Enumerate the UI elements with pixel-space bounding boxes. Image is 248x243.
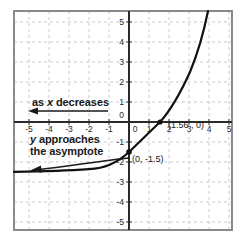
origin-y-label: 0 (119, 110, 124, 120)
coordinate-plane: -5 -4 -3 -2 -1 1 2 3 4 5 0 5 4 3 2 1 -1 … (0, 0, 248, 243)
y-tick-label: -3 (116, 177, 124, 187)
y-tick-label: -5 (116, 217, 124, 227)
x-intercept-label: (1.56 , 0) (168, 120, 204, 130)
annotation-line-1: y approaches (30, 133, 103, 145)
x-tick-label: 5 (227, 124, 232, 134)
x-intercept-point-marker (157, 119, 162, 124)
origin-x-label: 0 (133, 124, 138, 134)
exponential-graph-figure: -5 -4 -3 -2 -1 1 2 3 4 5 0 5 4 3 2 1 -1 … (0, 0, 248, 243)
y-tick-label: 3 (119, 57, 124, 67)
annotation-as-x-decreases: as x decreases (32, 96, 109, 108)
x-tick-label: -1 (105, 124, 113, 134)
y-tick-label: 4 (119, 37, 124, 47)
annotation-prefix: as (32, 96, 47, 108)
y-tick-label: 2 (119, 77, 124, 87)
y-intercept-label: (0, -1.5) (132, 154, 164, 164)
y-tick-label: -1 (116, 137, 124, 147)
annotation-suffix: approaches (36, 133, 100, 145)
y-tick-label: -4 (116, 197, 124, 207)
x-tick-label: 4 (207, 124, 212, 134)
y-intercept-point-marker (126, 149, 132, 155)
y-tick-label: 5 (119, 17, 124, 27)
annotation-suffix: decreases (53, 96, 109, 108)
annotation-y-approaches-asymptote: y approaches the asymptote (30, 133, 103, 157)
annotation-line-2: the asymptote (30, 145, 103, 157)
y-tick-label: 1 (119, 97, 124, 107)
